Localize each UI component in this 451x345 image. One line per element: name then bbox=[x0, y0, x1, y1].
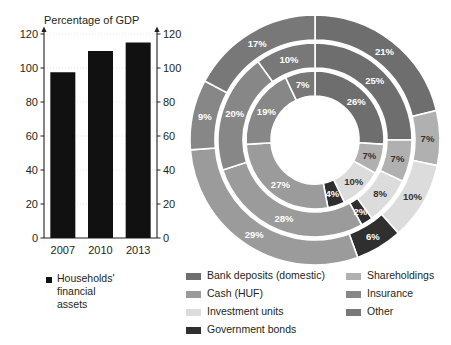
donut-slice-label: 2% bbox=[353, 206, 367, 217]
legend-item[interactable]: Cash (HUF) bbox=[186, 286, 346, 301]
legend-label: Bank deposits (domestic) bbox=[207, 268, 325, 283]
legend-color-swatch bbox=[346, 309, 361, 316]
legend-color-swatch bbox=[186, 309, 201, 316]
legend-color-swatch bbox=[186, 327, 201, 334]
bar bbox=[88, 51, 113, 238]
donut-slice-label: 7% bbox=[391, 153, 405, 164]
legend-label: Cash (HUF) bbox=[207, 286, 263, 301]
donut-slice-label: 6% bbox=[366, 231, 380, 242]
bar-chart-ytick-label-right: 80 bbox=[163, 96, 175, 108]
bar-chart-ytick-label-right: 120 bbox=[163, 28, 181, 40]
donut-rings bbox=[190, 15, 440, 265]
donut-slice-label: 26% bbox=[347, 96, 367, 107]
legend-label: Investment units bbox=[207, 304, 283, 319]
legend-color-swatch bbox=[346, 273, 361, 280]
legend-item[interactable]: Insurance bbox=[346, 286, 451, 301]
legend-label: Government bonds bbox=[207, 322, 296, 337]
bar-chart-svg: Percentage of GDP 020406080100120 020406… bbox=[0, 0, 186, 262]
legend-item[interactable]: Other bbox=[346, 304, 451, 319]
bar-chart-right-axis: 020406080100120 bbox=[154, 27, 181, 244]
bar-chart-ytick-label-right: 40 bbox=[163, 164, 175, 176]
bar bbox=[126, 43, 151, 239]
donut-slice-label: 27% bbox=[271, 179, 291, 190]
legend-item[interactable]: Bank deposits (domestic) bbox=[186, 268, 346, 283]
donut-slice-label: 21% bbox=[375, 46, 395, 57]
donut-legend-right-column: ShareholdingsInsuranceOther bbox=[346, 268, 451, 322]
donut-slice-label: 7% bbox=[421, 133, 435, 144]
donut-chart: 26%7%10%4%27%19%7%25%7%8%2%28%20%10%21%7… bbox=[184, 18, 446, 270]
bar-chart-ytick-label: 20 bbox=[26, 198, 38, 210]
square-marker-icon bbox=[46, 277, 52, 283]
legend-item[interactable]: Shareholdings bbox=[346, 268, 451, 283]
bar-legend-item: Households' financial assets bbox=[46, 272, 176, 311]
figure-container: Percentage of GDP 020406080100120 020406… bbox=[0, 0, 451, 345]
bar-legend-label-line1: Households' bbox=[57, 272, 114, 284]
donut-slice-label: 17% bbox=[248, 38, 268, 49]
donut-slice-label: 10% bbox=[279, 54, 299, 65]
bar-chart-legend: Households' financial assets bbox=[46, 272, 176, 332]
bar-chart: Percentage of GDP 020406080100120 020406… bbox=[0, 0, 186, 262]
legend-item[interactable]: Government bonds bbox=[186, 322, 346, 337]
donut-slice-label: 19% bbox=[257, 106, 277, 117]
donut-slice-label: 20% bbox=[225, 108, 245, 119]
donut-chart-svg: 26%7%10%4%27%19%7%25%7%8%2%28%20%10%21%7… bbox=[184, 18, 446, 270]
bar-chart-ytick-label-right: 100 bbox=[163, 62, 181, 74]
bar-chart-ytick-label: 80 bbox=[26, 96, 38, 108]
bar-chart-bars bbox=[44, 43, 157, 239]
bar-chart-ytick-label-right: 60 bbox=[163, 130, 175, 142]
donut-slice-label: 9% bbox=[198, 111, 212, 122]
legend-item[interactable]: Investment units bbox=[186, 304, 346, 319]
donut-slice-label: 7% bbox=[362, 150, 376, 161]
legend-color-swatch bbox=[186, 291, 201, 298]
bar-chart-left-axis: 020406080100120 bbox=[20, 27, 47, 244]
bar-chart-category-label: 2013 bbox=[126, 244, 150, 256]
bar-chart-title: Percentage of GDP bbox=[44, 14, 139, 26]
donut-slice-label: 4% bbox=[326, 188, 340, 199]
bar-legend-label-line2: financial bbox=[57, 285, 96, 297]
donut-slice-label: 8% bbox=[373, 188, 387, 199]
donut-slice-label: 25% bbox=[365, 75, 385, 86]
legend-color-swatch bbox=[346, 291, 361, 298]
donut-slice-label: 29% bbox=[245, 229, 265, 240]
donut-slice-label: 28% bbox=[274, 213, 294, 224]
donut-slice-label: 10% bbox=[403, 191, 423, 202]
bar-chart-ytick-label-right: 20 bbox=[163, 198, 175, 210]
bar-legend-label-line3: assets bbox=[57, 298, 87, 310]
bar-chart-ytick-label: 40 bbox=[26, 164, 38, 176]
donut-legend-left-column: Bank deposits (domestic)Cash (HUF)Invest… bbox=[186, 268, 346, 340]
donut-slice-label: 10% bbox=[344, 176, 364, 187]
legend-label: Shareholdings bbox=[367, 268, 434, 283]
bar-chart-ytick-label: 100 bbox=[20, 62, 38, 74]
legend-label: Other bbox=[367, 304, 393, 319]
bar-chart-category-label: 2010 bbox=[88, 244, 112, 256]
bar-chart-ytick-label: 120 bbox=[20, 28, 38, 40]
legend-color-swatch bbox=[186, 273, 201, 280]
bar-chart-category-label: 2007 bbox=[51, 244, 75, 256]
donut-slice-label: 7% bbox=[296, 79, 310, 90]
bar-chart-ytick-label-right: 0 bbox=[163, 232, 169, 244]
bar-chart-category-labels: 200720102013 bbox=[51, 244, 151, 256]
bar-legend-label: Households' financial assets bbox=[57, 272, 114, 311]
legend-label: Insurance bbox=[367, 286, 413, 301]
donut-legend: Bank deposits (domestic)Cash (HUF)Invest… bbox=[186, 268, 451, 345]
bar-chart-ytick-label: 0 bbox=[32, 232, 38, 244]
bar bbox=[50, 72, 75, 238]
bar-chart-ytick-label: 60 bbox=[26, 130, 38, 142]
